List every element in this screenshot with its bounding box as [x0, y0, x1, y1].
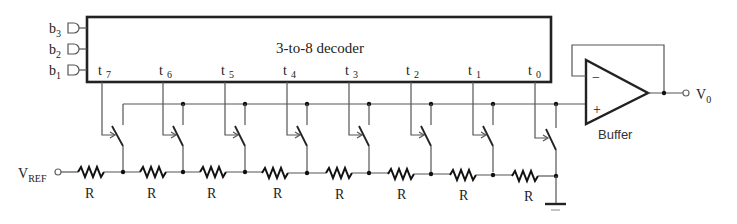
decoder-label: 3-to-8 decoder: [276, 40, 364, 56]
switch-t1-icon: [473, 82, 493, 172]
svg-text:VREF: VREF: [18, 166, 47, 184]
input-b2: b2: [49, 42, 87, 60]
resistor-icon: [140, 167, 166, 177]
svg-text:R: R: [397, 187, 407, 202]
svg-text:R: R: [147, 186, 157, 201]
switches: [102, 82, 556, 176]
input-buffer-icon: [68, 23, 79, 33]
switch-t5-icon: [225, 82, 245, 172]
svg-text:R: R: [459, 188, 469, 203]
buffer-label: Buffer: [598, 127, 633, 142]
resistor-icon: [262, 168, 288, 178]
switch-t7-icon: [102, 82, 123, 172]
svg-text:t0: t0: [528, 63, 541, 80]
switch-t0-icon: [535, 82, 556, 176]
svg-text:t3: t3: [345, 63, 358, 80]
svg-text:R: R: [335, 187, 345, 202]
decoder-outputs: t7 t6 t5 t4 t3 t2 t1 t0: [98, 63, 541, 80]
input-buffer-icon: [68, 65, 79, 75]
resistor-ladder: [61, 167, 558, 181]
resistor-icon: [326, 168, 352, 178]
ground-icon: [545, 176, 566, 210]
svg-text:b2: b2: [49, 42, 61, 60]
output-terminal: [683, 90, 689, 96]
input-b1: b1: [49, 63, 87, 81]
switch-t4-icon: [287, 82, 307, 172]
resistor-icon: [512, 171, 538, 181]
svg-text:t1: t1: [468, 63, 481, 80]
switch-t6-icon: [163, 82, 183, 172]
svg-text:t6: t6: [159, 63, 172, 80]
vref-terminal: VREF: [18, 166, 61, 184]
input-buffer-icon: [68, 44, 79, 54]
switch-t2-icon: [411, 82, 431, 172]
resistor-icon: [200, 167, 226, 177]
svg-text:t4: t4: [283, 63, 296, 80]
switch-t3-icon: [349, 82, 369, 172]
buffer-op-amp: − + Buffer: [572, 45, 689, 142]
svg-text:t5: t5: [221, 63, 234, 80]
svg-text:b3: b3: [49, 21, 61, 39]
svg-text:R: R: [207, 186, 217, 201]
resistor-icon: [388, 169, 414, 179]
resistor-icon: [78, 167, 104, 177]
noninverting-input-label: +: [593, 102, 601, 117]
svg-text:R: R: [273, 186, 283, 201]
svg-text:R: R: [524, 189, 534, 204]
resistor-icon: [450, 170, 476, 180]
resistor-labels: R R R R R R R R: [85, 186, 534, 204]
dac-circuit-diagram: 3-to-8 decoder b3 b2 b1 t7 t6 t5 t4 t3 t…: [0, 0, 737, 224]
input-b3: b3: [49, 21, 87, 39]
decoder-inputs: b3 b2 b1: [49, 21, 87, 81]
svg-text:t7: t7: [98, 63, 111, 80]
svg-text:t2: t2: [406, 63, 419, 80]
inverting-input-label: −: [592, 70, 600, 85]
svg-text:b1: b1: [49, 63, 61, 81]
svg-text:R: R: [85, 186, 95, 201]
output-label: V0: [696, 87, 711, 105]
